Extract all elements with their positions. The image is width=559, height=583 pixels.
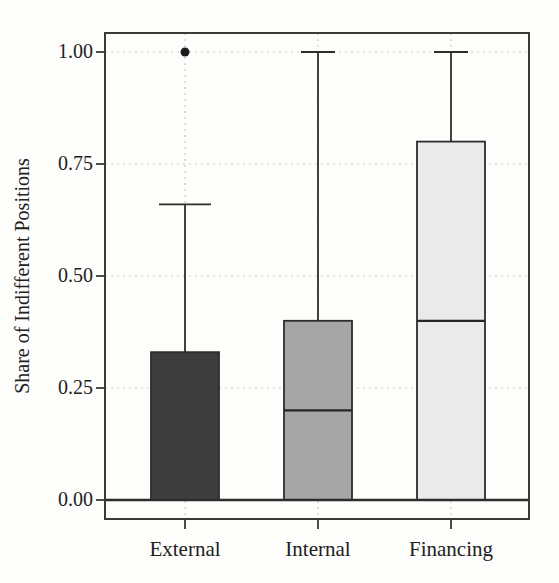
y-tick-label-2: 0.50: [58, 264, 93, 286]
x-category-label-internal: Internal: [285, 537, 350, 561]
y-tick-label-0: 0.00: [58, 488, 93, 510]
chart-render-layer: [96, 33, 529, 529]
x-category-label-external: External: [149, 537, 220, 561]
y-axis-title: Share of Indifferent Positions: [11, 158, 33, 394]
boxplot-chart: 0.00 0.25 0.50 0.75 1.00 External Intern…: [0, 0, 559, 583]
outlier-dot-external-0: [181, 48, 190, 57]
y-tick-label-4: 1.00: [58, 40, 93, 62]
y-tick-label-1: 0.25: [58, 376, 93, 398]
box-external: [151, 352, 219, 500]
y-tick-label-3: 0.75: [58, 152, 93, 174]
x-category-label-financing: Financing: [409, 537, 493, 561]
boxplot-figure: 0.00 0.25 0.50 0.75 1.00 External Intern…: [0, 0, 559, 583]
